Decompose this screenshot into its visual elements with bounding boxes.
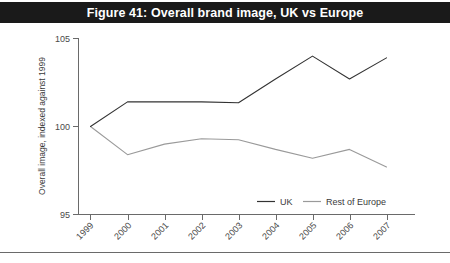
y-axis-ticks: [73, 39, 79, 215]
x-tick-label-2000: 2000: [112, 220, 133, 241]
figure-title-banner: Figure 41: Overall brand image, UK vs Eu…: [0, 2, 450, 23]
y-tick-label-105: 105: [55, 34, 70, 44]
x-tick-label-2005: 2005: [297, 220, 318, 241]
x-tick-label-2001: 2001: [149, 220, 170, 241]
x-tick-label-2004: 2004: [260, 220, 281, 241]
chart-legend: UK Rest of Europe: [257, 197, 386, 207]
figure-container: Figure 41: Overall brand image, UK vs Eu…: [0, 0, 450, 263]
x-axis-ticks: [91, 215, 388, 221]
x-tick-label-2002: 2002: [186, 220, 207, 241]
legend-label-rest-of-europe: Rest of Europe: [326, 197, 386, 207]
x-tick-label-2007: 2007: [371, 220, 392, 241]
x-tick-label-1999: 1999: [74, 220, 95, 241]
line-chart-svg: 105 100 95 Overall image, indexed agains…: [0, 23, 450, 263]
series-line-uk: [91, 56, 387, 126]
x-tick-label-2003: 2003: [223, 220, 244, 241]
series-line-rest-of-europe: [91, 127, 387, 167]
y-tick-label-95: 95: [60, 210, 70, 220]
page-title: Figure 41: Overall brand image, UK vs Eu…: [87, 6, 364, 20]
bottom-divider: [0, 252, 450, 253]
x-tick-label-2006: 2006: [334, 220, 355, 241]
chart-plot-area: 105 100 95 Overall image, indexed agains…: [0, 23, 450, 263]
y-axis-title: Overall image, indexed against 1999: [37, 57, 47, 195]
legend-label-uk: UK: [280, 197, 293, 207]
y-tick-label-100: 100: [55, 122, 70, 132]
